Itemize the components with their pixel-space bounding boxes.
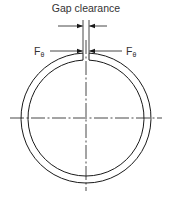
force-label-left: Fθ xyxy=(34,45,44,58)
piston-ring-gap-diagram: Gap clearance Fθ Fθ xyxy=(0,0,172,199)
gap-clearance-label: Gap clearance xyxy=(52,2,120,14)
force-label-right: Fθ xyxy=(126,45,136,58)
force-subscript-right: θ xyxy=(132,51,136,58)
force-subscript-left: θ xyxy=(40,51,44,58)
